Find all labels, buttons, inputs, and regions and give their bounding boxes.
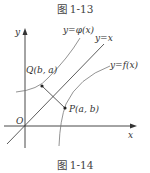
point-p	[63, 106, 66, 109]
x-axis-arrow-icon	[130, 124, 137, 129]
point-q-label: Q(b, a)	[26, 65, 58, 75]
point-q	[40, 84, 43, 87]
point-p-label: P(a, b)	[68, 104, 99, 114]
identity-line	[7, 44, 104, 144]
figure-caption-bottom: 图 1-14	[0, 157, 150, 172]
identity-line-label: y=x	[94, 33, 113, 43]
y-axis-label: y	[14, 27, 21, 37]
x-axis-label: x	[128, 130, 133, 140]
phi-curve-label: y=φ(x)	[62, 25, 95, 35]
y-axis-arrow-icon	[23, 28, 28, 35]
axes	[4, 28, 137, 148]
f-curve-label: y=f(x)	[109, 60, 139, 70]
inverse-function-diagram: y x O y=φ(x) y=x y=f(x) Q(b, a) P(a, b)	[0, 0, 150, 173]
origin-label: O	[16, 116, 24, 126]
